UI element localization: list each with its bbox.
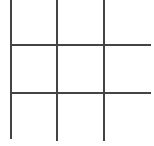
board-cell-r3-c2[interactable] (58, 94, 105, 141)
board-cell-r3-c1[interactable] (12, 94, 58, 141)
board-cell-r1-c2[interactable] (58, 0, 105, 46)
board-cell-r2-c3[interactable] (105, 46, 151, 94)
board-cell-r1-c1[interactable] (12, 0, 58, 46)
board-cell-r2-c2[interactable] (58, 46, 105, 94)
board-cell-r1-c3[interactable] (105, 0, 151, 46)
tic-tac-toe-board (10, 0, 149, 139)
board-cell-r3-c3[interactable] (105, 94, 151, 141)
board-cell-r2-c1[interactable] (12, 46, 58, 94)
